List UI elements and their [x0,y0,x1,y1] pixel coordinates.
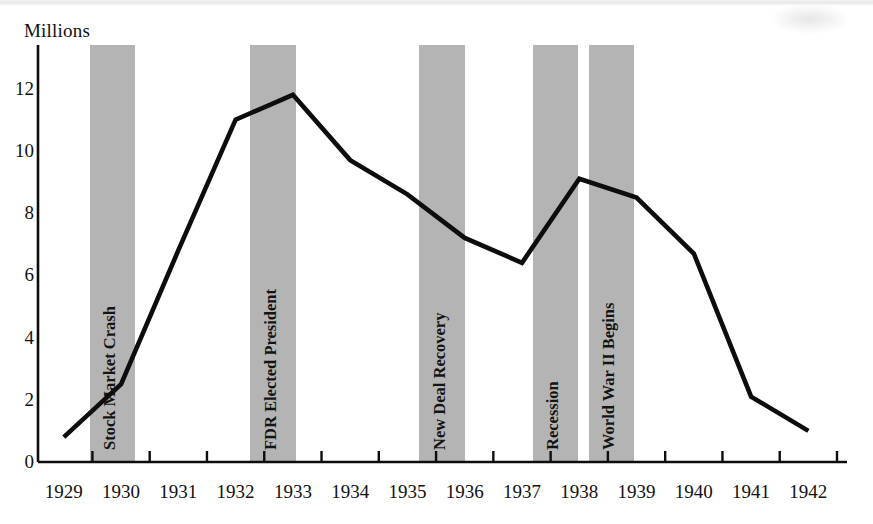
axis-lines [38,45,847,462]
unemployment-line-chart: Millions Stock Market CrashFDR Elected P… [0,0,873,524]
data-line [64,95,809,437]
plot-svg [0,0,873,524]
